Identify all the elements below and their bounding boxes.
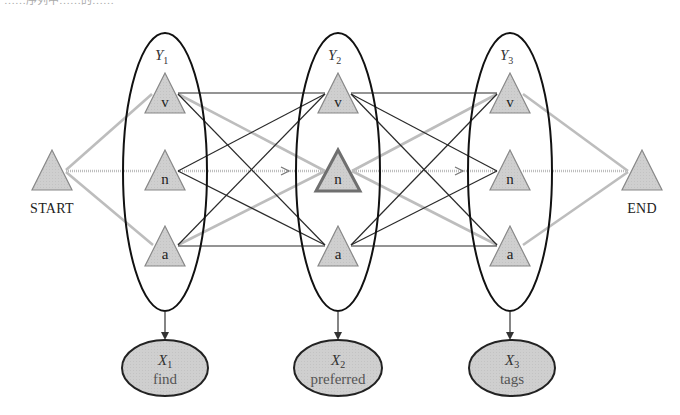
observation-x2-ellipse[interactable] [294, 340, 382, 396]
state-y3-a-label: a [507, 246, 514, 262]
state-y2-a-label: a [335, 246, 342, 262]
state-y1-v-label: v [161, 94, 169, 110]
emission-arrows [165, 311, 510, 338]
label-y3: Y3 [500, 47, 513, 66]
observation-nodes: X1 find X2 preferred X3 tags [122, 340, 555, 396]
observation-x3-ellipse[interactable] [469, 340, 555, 396]
observation-x2-word: preferred [311, 371, 366, 387]
state-y3-n-label: n [506, 171, 514, 187]
observation-x1-word: find [153, 371, 178, 387]
label-y2: Y2 [328, 47, 341, 66]
header-fragment: ……序列中……的…… [4, 0, 114, 6]
state-y2-v-label: v [334, 94, 342, 110]
edge-start-a1 [66, 172, 153, 245]
state-nodes: START v n a v n a v n a END [30, 73, 662, 266]
end-label: END [627, 201, 657, 216]
edge-a3-end [523, 172, 628, 245]
observation-x3-word: tags [500, 371, 524, 387]
observation-x1-ellipse[interactable] [122, 340, 208, 396]
state-y1-a-label: a [162, 246, 169, 262]
hmm-trellis-diagram: ……序列中……的…… [0, 0, 680, 415]
start-label: START [30, 201, 74, 216]
edge-v3-end [523, 94, 628, 171]
state-y2-n-label: n [334, 171, 342, 187]
state-y3-v-label: v [506, 94, 514, 110]
state-y1-n-label: n [161, 171, 169, 187]
label-y1: Y1 [155, 47, 168, 66]
edge-start-v1 [66, 94, 152, 170]
